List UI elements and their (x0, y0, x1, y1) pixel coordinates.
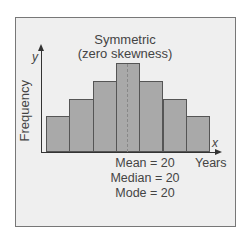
y-axis-label: Frequency (17, 82, 32, 142)
histogram-bar (116, 63, 140, 152)
y-axis-arrow-icon (38, 44, 44, 51)
histogram-bar (139, 81, 163, 152)
histogram-bar (93, 81, 117, 152)
x-axis (41, 152, 216, 153)
median-annotation: Median = 20 (90, 171, 200, 186)
y-axis (41, 48, 42, 153)
center-dashed-line (127, 64, 128, 152)
histogram-bar (163, 99, 187, 152)
mean-annotation: Mean = 20 (90, 156, 200, 171)
mode-annotation: Mode = 20 (90, 186, 200, 201)
histogram-bar (186, 116, 210, 152)
x-axis-symbol: x (212, 136, 218, 150)
histogram-bar (69, 99, 93, 152)
histogram-bar (46, 116, 70, 152)
y-axis-symbol: y (32, 50, 38, 64)
x-axis-arrow-icon (215, 149, 222, 155)
